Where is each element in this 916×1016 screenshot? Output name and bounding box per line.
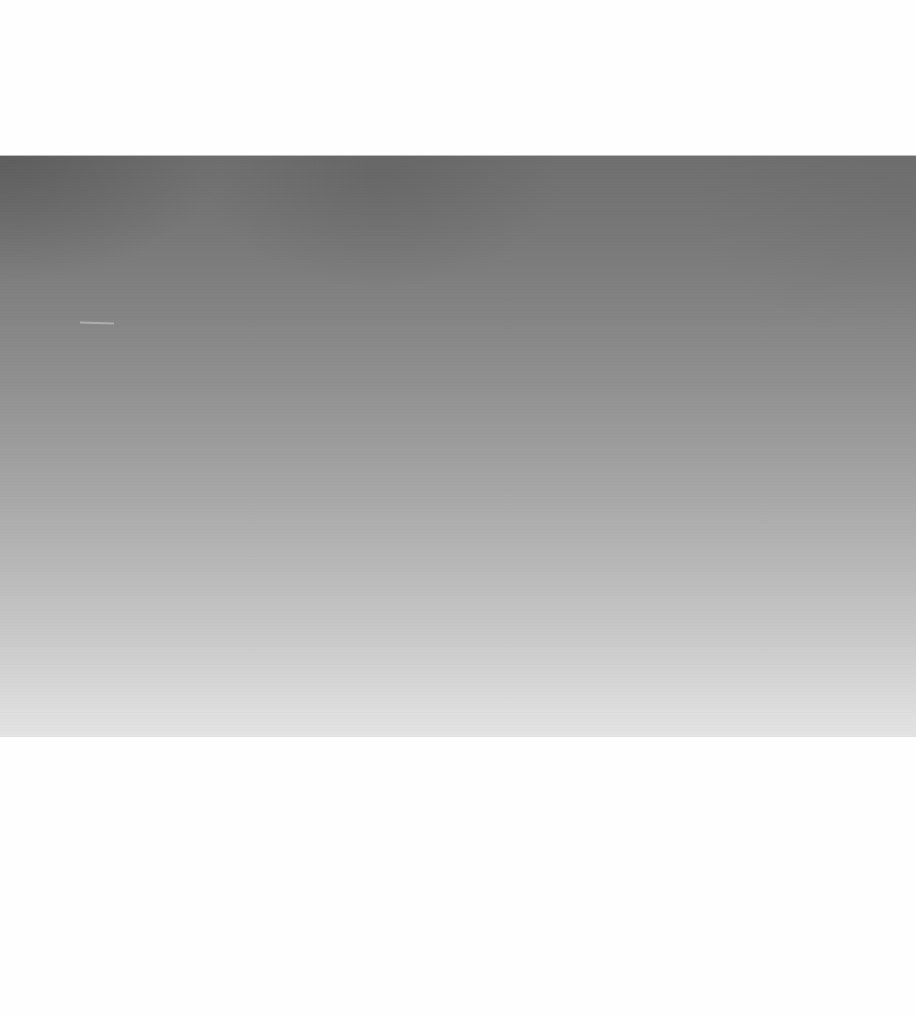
paper-page: [0, 0, 916, 1016]
gradient-photograph: [0, 156, 916, 737]
photo-grain: [0, 156, 916, 737]
